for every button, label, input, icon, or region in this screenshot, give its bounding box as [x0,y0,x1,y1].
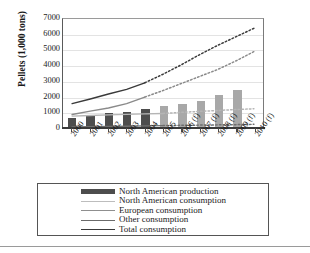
legend-swatch-line [81,197,115,206]
line-european-consumption-actual [72,97,145,114]
footer-rule [0,246,310,247]
y-tick-2000: 2000 [26,93,60,101]
legend-swatch-line [81,225,115,234]
legend-line [81,201,115,202]
line-european-consumption-forecast [145,52,254,97]
line-north-american-consumption-forecast [163,109,254,114]
y-tick-5000: 5000 [26,45,60,53]
legend-line [81,229,115,230]
chart-legend: North American productionNorth American … [37,183,269,236]
legend-item: Total consumption [38,225,268,234]
y-tick-1000: 1000 [26,108,60,116]
line-north-american-consumption-actual [72,113,163,116]
y-tick-3000: 3000 [26,77,60,85]
y-tick-4000: 4000 [26,61,60,69]
line-total-consumption-forecast [145,28,254,82]
legend-swatch-block [81,189,115,194]
legend-swatch-line [81,206,115,215]
y-tick-6000: 6000 [26,30,60,38]
legend-swatch-line [81,215,115,224]
legend-label: Total consumption [119,225,186,234]
y-axis-tick-labels: 01000200030004000500060007000 [22,18,60,128]
y-tick-0: 0 [26,124,60,132]
chart-figure: Pellets (1,000 tons) 0100020003000400050… [0,0,310,253]
y-tick-7000: 7000 [26,14,60,22]
legend-line [81,220,115,221]
legend-list: North American productionNorth American … [38,184,268,234]
legend-line [81,210,115,211]
